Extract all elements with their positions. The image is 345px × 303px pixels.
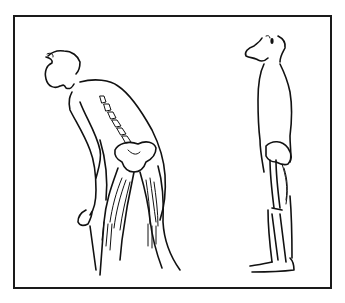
upright-posture-figure [245, 36, 294, 272]
posture-illustration [0, 0, 345, 303]
bent-posture-figure [45, 51, 180, 275]
